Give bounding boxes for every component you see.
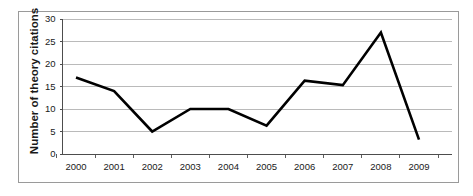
gridlines-group bbox=[63, 19, 453, 154]
x-tick-label-2005: 2005 bbox=[247, 161, 287, 172]
x-tick-label-2000: 2000 bbox=[56, 161, 96, 172]
x-tick-label-2001: 2001 bbox=[94, 161, 134, 172]
x-tick-label-2004: 2004 bbox=[208, 161, 248, 172]
chart-figure: Number of theory citations 051015202530 … bbox=[0, 0, 473, 196]
axes-group bbox=[60, 19, 63, 154]
y-tick-label-15: 15 bbox=[34, 81, 56, 92]
y-tick-label-10: 10 bbox=[34, 103, 56, 114]
y-tick-label-25: 25 bbox=[34, 36, 56, 47]
x-tick-label-2008: 2008 bbox=[361, 161, 401, 172]
x-tick-marks-group bbox=[57, 154, 438, 158]
y-tick-label-30: 30 bbox=[34, 13, 56, 24]
x-tick-label-2009: 2009 bbox=[399, 161, 439, 172]
x-tick-label-2006: 2006 bbox=[285, 161, 325, 172]
y-tick-label-5: 5 bbox=[34, 126, 56, 137]
plot-area: 051015202530 200020012002200320042005200… bbox=[0, 0, 473, 196]
x-tick-label-2003: 2003 bbox=[170, 161, 210, 172]
y-tick-label-0: 0 bbox=[34, 148, 56, 159]
x-tick-label-2002: 2002 bbox=[132, 161, 172, 172]
y-tick-label-20: 20 bbox=[34, 58, 56, 69]
x-tick-label-2007: 2007 bbox=[323, 161, 363, 172]
